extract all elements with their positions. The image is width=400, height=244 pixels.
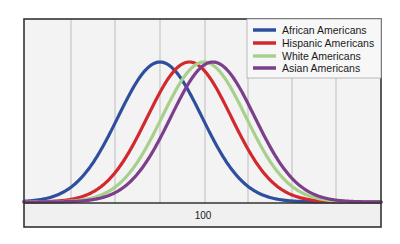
x-tick-label-100: 100 bbox=[195, 210, 212, 221]
legend-label: African Americans bbox=[282, 24, 367, 36]
bell-curve-chart: African Americans Hispanic Americans Whi… bbox=[0, 0, 400, 244]
legend-label: Asian Americans bbox=[282, 62, 360, 74]
legend-label: Hispanic Americans bbox=[282, 37, 374, 49]
legend: African Americans Hispanic Americans Whi… bbox=[247, 19, 381, 78]
legend-label: White Americans bbox=[282, 50, 361, 62]
